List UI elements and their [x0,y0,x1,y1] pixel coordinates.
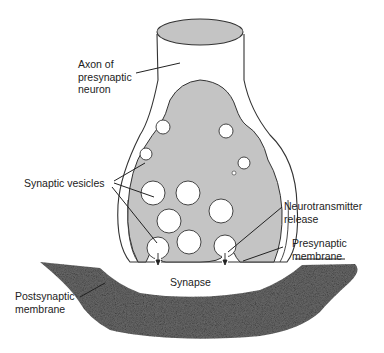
label-synapse: Synapse [170,276,211,289]
postsynaptic-membrane-shape [40,262,358,339]
synaptic-vesicle [176,181,200,205]
synaptic-vesicle [141,181,165,205]
label-synaptic-vesicles: Synaptic vesicles [24,177,105,190]
label-postsynaptic-membrane: Postsynaptic membrane [15,290,75,315]
edge-vesicle [238,157,250,169]
synaptic-vesicle [209,199,233,223]
small-vesicle [232,171,236,175]
edge-vesicle [140,148,152,160]
synaptic-vesicle [177,230,201,254]
label-presynaptic-membrane: Presynaptic membrane [292,237,347,262]
edge-vesicle [156,120,170,134]
label-neurotransmitter-release: Neurotransmitter release [284,200,362,225]
edge-vesicle [219,124,233,138]
axon-cross-section [157,19,243,45]
synaptic-vesicle [157,209,181,233]
synapse-diagram: Axon of presynaptic neuron Synaptic vesi… [0,0,384,353]
label-axon: Axon of presynaptic neuron [78,58,132,96]
